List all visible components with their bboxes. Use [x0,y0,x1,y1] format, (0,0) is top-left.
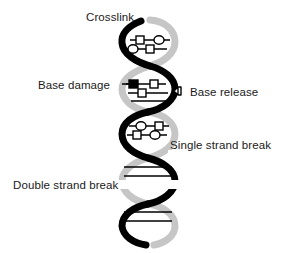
front-strand-seg-5 [122,204,148,245]
lesion-square [138,89,146,97]
lesion-square [155,122,163,130]
double-strand-break-marker [112,180,184,189]
lesion-circle [150,131,160,139]
lesion-square [133,131,141,139]
lesion-square [136,36,144,44]
lesion-circle [154,36,164,44]
lesion-circle [128,45,138,53]
label-base-damage: Base damage [38,79,110,92]
base-damage-marker [129,80,158,97]
helix-svg [0,0,282,254]
lesion-circle [136,122,146,130]
dna-helix-illustration [0,0,282,254]
front-strand-seg-2 [148,66,175,112]
label-double-strand-break: Double strand break [13,179,118,192]
lesion-square [146,45,154,53]
lesion-square [150,80,158,88]
back-strand-seg-5 [148,204,175,245]
label-single-strand-break: Single strand break [170,139,271,152]
label-base-release: Base release [190,86,258,99]
dna-damage-diagram: Crosslink Base damage Base release Singl… [0,0,282,254]
label-crosslink: Crosslink [86,11,134,24]
crosslink-marker [128,36,164,53]
ssb-lesion-symbols [133,122,163,139]
